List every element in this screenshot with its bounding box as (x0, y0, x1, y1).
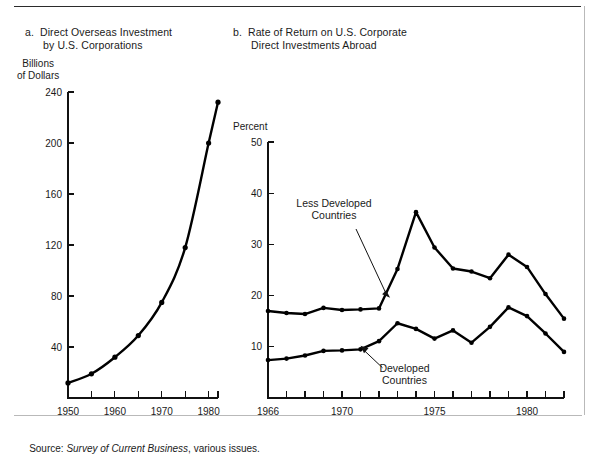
panel-b-data-point (340, 308, 345, 313)
panel-b-data-point (266, 358, 271, 363)
source-suffix: , various issues. (188, 443, 260, 454)
panel-b-data-point (543, 292, 548, 297)
panel-b-data-point (266, 309, 271, 314)
figure-frame-right-edge (584, 6, 585, 415)
panel-b-y-tick-label: 20 (251, 290, 263, 301)
panel-b-data-point (321, 349, 326, 354)
panel-b-data-point (414, 327, 419, 332)
panel-a-y-tick-label: 240 (45, 87, 62, 98)
panel-b-data-point (284, 311, 289, 316)
panel-b-data-point (340, 348, 345, 353)
panel-b-data-point (377, 339, 382, 344)
panel-b-title: b. Rate of Return on U.S. Corporate Dire… (233, 26, 407, 52)
panel-b-data-point (562, 350, 567, 355)
panel-b-data-point (506, 252, 511, 257)
panel-b-series-line-developed (268, 307, 564, 360)
panel-b-data-point (488, 325, 493, 330)
panel-a-x-tick-label: 1960 (104, 406, 127, 417)
source-publication: Survey of Current Business (66, 443, 188, 454)
panel-b-plot: 50403020101966197019751980Less Developed… (224, 130, 584, 420)
annotation-less-developed-line2: Countries (312, 209, 357, 221)
panel-b-data-point (414, 210, 419, 215)
panel-b-data-point (469, 269, 474, 274)
panel-a-data-point (183, 245, 188, 250)
panel-b-data-point (377, 306, 382, 311)
panel-b-data-point (432, 245, 437, 250)
panel-b-data-point (506, 305, 511, 310)
panel-b-x-tick-label: 1980 (516, 406, 539, 417)
panel-b-axes (268, 142, 564, 398)
annotation-less-developed-arrow (356, 229, 386, 294)
panel-b-data-point (303, 312, 308, 317)
panel-b-data-point (469, 340, 474, 345)
panel-a-x-tick-label: 1980 (198, 406, 221, 417)
figure-top-rule (14, 6, 581, 7)
panel-a-plot: 40801201602002401950196019701980 (0, 80, 224, 420)
panel-b-data-point (451, 328, 456, 333)
panel-b-y-tick-label: 10 (251, 341, 263, 352)
panel-b-data-point (562, 316, 567, 321)
panel-a-title: a. Direct Overseas Investment by U.S. Co… (25, 26, 172, 52)
figure-container: a. Direct Overseas Investment by U.S. Co… (0, 0, 597, 458)
panel-b-data-point (303, 353, 308, 358)
panel-b-data-point (321, 306, 326, 311)
panel-a-x-tick-label: 1950 (57, 406, 80, 417)
panel-b-y-tick-label: 40 (251, 188, 263, 199)
panel-a-data-point (65, 380, 70, 385)
annotation-developed-line1: Developed (379, 362, 429, 374)
panel-a-y-tick-label: 80 (51, 291, 63, 302)
panel-a-x-tick-label: 1970 (151, 406, 174, 417)
panel-b-x-tick-label: 1966 (257, 406, 280, 417)
panel-b-data-point (451, 266, 456, 271)
panel-a-data-point (159, 300, 164, 305)
panel-a-y-tick-label: 160 (45, 189, 62, 200)
panel-a-y-tick-label: 40 (51, 342, 63, 353)
panel-a-data-point (206, 140, 211, 145)
annotation-less-developed-line1: Less Developed (296, 197, 371, 209)
panel-b-data-point (525, 314, 530, 319)
panel-b-y-tick-label: 30 (251, 239, 263, 250)
panel-b-data-point (525, 265, 530, 270)
source-prefix: Source: (29, 443, 66, 454)
panel-b-data-point (395, 267, 400, 272)
panel-b-x-tick-label: 1975 (423, 406, 446, 417)
source-note: Source: Survey of Current Business, vari… (18, 432, 260, 458)
panel-b-x-tick-label: 1970 (331, 406, 354, 417)
panel-a-data-point (89, 371, 94, 376)
panel-b-series-line-less-developed (268, 212, 564, 319)
panel-b-data-point (488, 276, 493, 281)
panel-a-data-point (112, 355, 117, 360)
panel-b-y-tick-label: 50 (251, 137, 263, 148)
panel-b-data-point (358, 307, 363, 312)
panel-a-data-point (136, 333, 141, 338)
panel-a-y-axis-caption: Billions of Dollars (17, 58, 59, 82)
panel-a-axes (68, 92, 218, 398)
panel-a-y-tick-label: 120 (45, 240, 62, 251)
panel-b-data-point (432, 336, 437, 341)
panel-a-data-point (215, 100, 220, 105)
panel-a-series-line (68, 102, 218, 383)
annotation-developed-line2: Countries (382, 374, 427, 386)
panel-a-y-tick-label: 200 (45, 138, 62, 149)
panel-b-data-point (543, 331, 548, 336)
panel-b-data-point (395, 321, 400, 326)
annotation-developed-arrow (365, 351, 383, 368)
panel-b-data-point (284, 356, 289, 361)
